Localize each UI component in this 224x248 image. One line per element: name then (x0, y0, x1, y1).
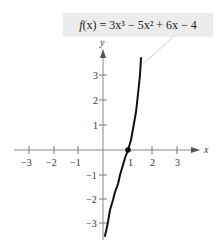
callout-leader-line (143, 37, 173, 64)
x-tick-label: 3 (175, 157, 180, 168)
chart-plot: x y −3 −2 −1 1 2 3 3 2 1 −1 −2 −3 (0, 0, 224, 248)
x-axis-label: x (203, 144, 209, 155)
y-tick-label: −2 (86, 194, 97, 205)
y-tick-label: −3 (86, 218, 97, 229)
function-curve (105, 58, 141, 236)
y-axis-label: y (99, 37, 105, 48)
y-tick-label: −1 (86, 170, 97, 181)
x-axis-arrow-icon (191, 147, 200, 153)
y-tick-label: 2 (93, 95, 98, 106)
x-tick-label: 2 (150, 157, 155, 168)
y-tick-label: 1 (93, 120, 98, 131)
x-tick-label: −2 (46, 157, 57, 168)
x-tick-label: −1 (70, 157, 81, 168)
x-tick-label: 1 (128, 157, 133, 168)
y-axis-arrow-icon (100, 49, 106, 58)
x-intercept-point (125, 147, 131, 153)
x-tick-label: −3 (21, 157, 32, 168)
y-tick-label: 3 (93, 70, 98, 81)
